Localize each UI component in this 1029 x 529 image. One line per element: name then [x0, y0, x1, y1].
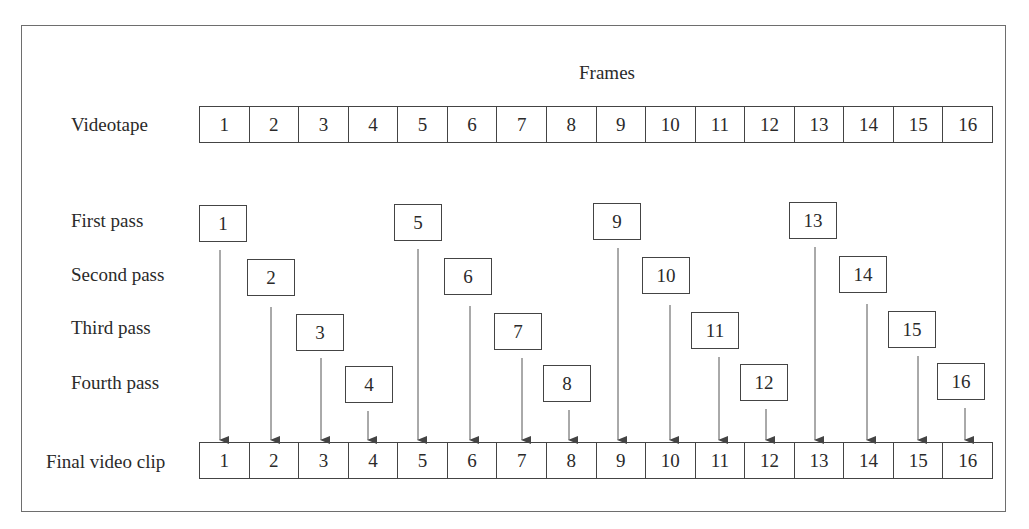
first-pass-label: First pass	[71, 210, 143, 232]
final-frame: 13	[795, 443, 845, 478]
videotape-frame: 10	[646, 107, 696, 142]
videotape-strip: 1 2 3 4 5 6 7 8 9 10 11 12 13 14 15 16	[199, 106, 993, 143]
videotape-frame: 1	[200, 107, 250, 142]
final-clip-strip: 1 2 3 4 5 6 7 8 9 10 11 12 13 14 15 16	[199, 442, 993, 479]
second-pass-frame: 10	[642, 257, 690, 294]
final-frame: 14	[844, 443, 894, 478]
final-frame: 9	[597, 443, 647, 478]
final-frame: 16	[943, 443, 992, 478]
final-frame: 11	[696, 443, 746, 478]
frames-title: Frames	[0, 62, 1029, 84]
first-pass-frame: 13	[789, 202, 837, 239]
second-pass-label: Second pass	[71, 264, 164, 286]
videotape-frame: 16	[943, 107, 992, 142]
final-frame: 5	[398, 443, 448, 478]
final-frame: 1	[200, 443, 250, 478]
third-pass-label: Third pass	[71, 317, 151, 339]
videotape-frame: 9	[597, 107, 647, 142]
videotape-frame: 2	[250, 107, 300, 142]
final-frame: 12	[745, 443, 795, 478]
fourth-pass-frame: 16	[937, 363, 985, 400]
fourth-pass-frame: 8	[543, 365, 591, 402]
final-frame: 3	[299, 443, 349, 478]
final-frame: 10	[646, 443, 696, 478]
final-frame: 4	[349, 443, 399, 478]
final-video-clip-label: Final video clip	[46, 451, 165, 473]
fourth-pass-frame: 4	[345, 366, 393, 403]
second-pass-frame: 2	[247, 259, 295, 296]
first-pass-frame: 5	[394, 204, 442, 241]
videotape-frame: 3	[299, 107, 349, 142]
videotape-frame: 4	[349, 107, 399, 142]
videotape-frame: 5	[398, 107, 448, 142]
third-pass-frame: 11	[691, 312, 739, 349]
final-frame: 15	[894, 443, 944, 478]
videotape-frame: 14	[844, 107, 894, 142]
final-frame: 2	[250, 443, 300, 478]
first-pass-frame: 9	[593, 203, 641, 240]
final-frame: 7	[497, 443, 547, 478]
third-pass-frame: 15	[888, 311, 936, 348]
videotape-frame: 12	[745, 107, 795, 142]
videotape-label: Videotape	[71, 114, 148, 136]
videotape-frame: 11	[696, 107, 746, 142]
second-pass-frame: 6	[444, 258, 492, 295]
final-frame: 8	[547, 443, 597, 478]
third-pass-frame: 3	[296, 314, 344, 351]
final-frame: 6	[448, 443, 498, 478]
fourth-pass-frame: 12	[740, 364, 788, 401]
fourth-pass-label: Fourth pass	[71, 372, 159, 394]
first-pass-frame: 1	[199, 205, 247, 242]
videotape-frame: 7	[497, 107, 547, 142]
second-pass-frame: 14	[839, 256, 887, 293]
videotape-frame: 6	[448, 107, 498, 142]
videotape-frame: 8	[547, 107, 597, 142]
videotape-frame: 13	[795, 107, 845, 142]
third-pass-frame: 7	[494, 313, 542, 350]
videotape-frame: 15	[894, 107, 944, 142]
